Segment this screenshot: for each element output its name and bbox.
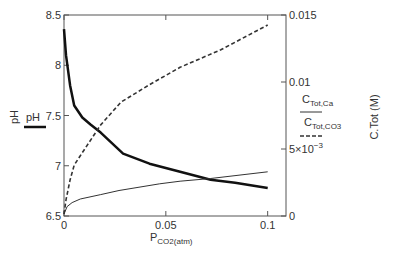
series-line-c-tot-co3: [64, 25, 268, 214]
y-right-tick-label: 0: [289, 210, 295, 222]
y-left-tick-label: 7: [55, 160, 61, 172]
y-right-tick-label: 0.015: [289, 9, 317, 21]
legend-ph-label: pH: [26, 111, 40, 123]
series-line-c-tot-ca: [64, 172, 268, 214]
chart: 00.050.16.577.588.505×10−30.010.015 PCO2…: [0, 0, 400, 258]
y-left-tick-label: 6.5: [46, 210, 61, 222]
legend-co3-label: CTot,CO3: [304, 116, 342, 131]
curves: [64, 25, 268, 214]
x-axis-label: PCO2(atm): [150, 231, 193, 246]
y-left-tick-label: 8: [55, 59, 61, 71]
x-tick-label: 0: [61, 219, 67, 231]
y-left-tick-label: 8.5: [46, 9, 61, 21]
legend-ca-label: CTot,Ca: [302, 93, 334, 108]
y-axis-left-label: pH: [8, 110, 20, 124]
x-tick-label: 0.05: [155, 219, 176, 231]
y-right-tick-label: 0.01: [289, 76, 310, 88]
y-left-tick-label: 7.5: [46, 110, 61, 122]
y-axis-right-label: C.Tot (M): [368, 94, 380, 139]
x-tick-label: 0.1: [260, 219, 275, 231]
series-line-ph: [64, 29, 268, 188]
y-right-tick-label: 5×10−3: [289, 141, 323, 155]
